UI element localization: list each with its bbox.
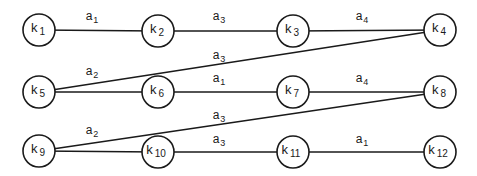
node-k8: k8 xyxy=(424,76,456,108)
node-k3: k3 xyxy=(277,15,309,47)
edge-label: a1 xyxy=(86,9,99,25)
edge-k1-k2 xyxy=(39,30,158,31)
edge-label: a3 xyxy=(213,48,226,64)
edge-label: a1 xyxy=(213,71,226,87)
edge-k5-k4 xyxy=(39,30,440,92)
edge-label: a2 xyxy=(86,123,99,139)
edges-layer xyxy=(39,30,440,152)
node-k11: k11 xyxy=(277,136,309,168)
node-k5: k5 xyxy=(23,76,55,108)
node-k7: k7 xyxy=(277,76,309,108)
edge-label: a2 xyxy=(86,64,99,80)
edge-label: a1 xyxy=(356,132,369,148)
node-k4: k4 xyxy=(424,14,456,46)
edge-label: a3 xyxy=(213,108,226,124)
edge-k9-k10 xyxy=(39,151,158,152)
node-k6: k6 xyxy=(142,76,174,108)
edge-label: a4 xyxy=(356,71,369,87)
edge-k9-k8 xyxy=(39,92,440,151)
edge-label: a3 xyxy=(213,132,226,148)
node-k10: k10 xyxy=(142,136,174,168)
node-k12: k12 xyxy=(424,136,456,168)
node-k1: k1 xyxy=(23,14,55,46)
edge-label: a4 xyxy=(356,9,369,25)
node-k2: k2 xyxy=(142,15,174,47)
state-graph-diagram: a1a3a4a3a2a1a4a3a2a3a1 k1k2k3k4k5k6k7k8k… xyxy=(0,0,477,176)
edge-label: a3 xyxy=(213,9,226,25)
edge-k3-k4 xyxy=(293,30,440,31)
node-k9: k9 xyxy=(23,135,55,167)
